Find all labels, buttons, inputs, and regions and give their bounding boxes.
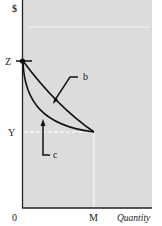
plot-panel bbox=[22, 0, 152, 208]
m-label: M bbox=[89, 212, 98, 223]
b-label: b bbox=[83, 71, 88, 82]
z-label: Z bbox=[5, 56, 11, 67]
chart: $ Z Y b c 0 M Quantity bbox=[0, 0, 162, 226]
origin-label: 0 bbox=[12, 212, 17, 223]
c-label: c bbox=[53, 149, 58, 160]
y-axis-label: $ bbox=[12, 3, 17, 14]
y-label: Y bbox=[8, 127, 15, 138]
x-axis-label: Quantity bbox=[117, 213, 151, 223]
